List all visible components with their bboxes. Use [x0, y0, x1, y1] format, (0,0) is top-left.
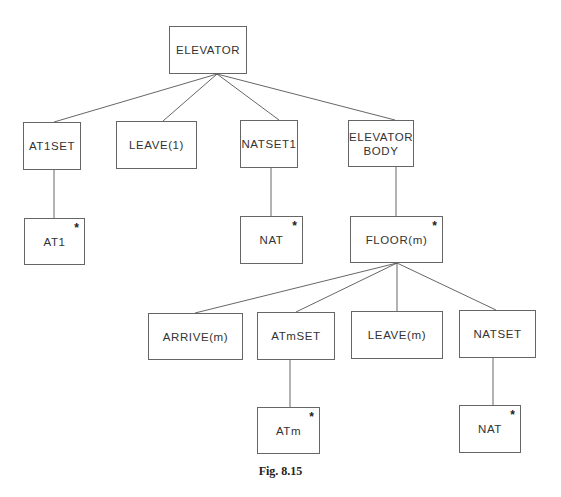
node-label: NAT	[260, 233, 284, 247]
node-label: LEAVE(1)	[129, 138, 184, 152]
edge-elevator-at1set	[54, 74, 217, 122]
node-nat-upper: NAT *	[240, 216, 303, 264]
node-natset1: NATSET1	[240, 120, 298, 168]
node-label: NATSET	[473, 327, 521, 341]
iteration-marker-icon: *	[309, 410, 314, 424]
iteration-marker-icon: *	[432, 219, 437, 233]
node-label: AT1SET	[29, 139, 75, 153]
node-label: ELEVATOR BODY	[349, 130, 413, 158]
node-label: ARRIVE(m)	[163, 330, 228, 344]
node-atmset: ATmSET	[257, 312, 335, 360]
edge-floor-natset	[397, 263, 496, 310]
node-at1: AT1 *	[24, 218, 85, 265]
edge-floor-arrive	[195, 263, 397, 313]
node-label: ELEVATOR	[176, 43, 240, 57]
node-label: AT1	[43, 235, 65, 249]
node-leave1: LEAVE(1)	[116, 121, 197, 169]
figure-caption: Fig. 8.15	[0, 464, 561, 479]
node-floor-m: FLOOR(m) *	[350, 216, 443, 263]
node-atm: ATm *	[257, 407, 320, 454]
edge-floor-atmset	[296, 263, 397, 312]
node-label: NATSET1	[241, 137, 296, 151]
iteration-marker-icon: *	[292, 219, 297, 233]
node-label: FLOOR(m)	[366, 233, 428, 247]
node-elevator-body: ELEVATOR BODY	[348, 120, 414, 167]
iteration-marker-icon: *	[510, 408, 515, 422]
node-label: ATm	[276, 424, 301, 438]
node-label: LEAVE(m)	[368, 328, 426, 342]
node-leave-m: LEAVE(m)	[351, 311, 443, 359]
edge-elevator-leave1	[163, 74, 217, 121]
edge-elevator-body	[217, 74, 395, 120]
node-arrive-m: ARRIVE(m)	[148, 313, 243, 360]
node-elevator: ELEVATOR	[169, 26, 247, 74]
node-natset: NATSET	[459, 310, 536, 358]
node-label: NAT	[478, 422, 502, 436]
node-at1set: AT1SET	[23, 122, 81, 170]
edge-elevator-natset1	[217, 74, 279, 120]
node-label: ATmSET	[271, 329, 320, 343]
node-nat-lower: NAT *	[459, 405, 521, 453]
iteration-marker-icon: *	[74, 221, 79, 235]
jsp-structure-diagram: ELEVATOR AT1SET LEAVE(1) NATSET1 ELEVATO…	[0, 0, 561, 497]
